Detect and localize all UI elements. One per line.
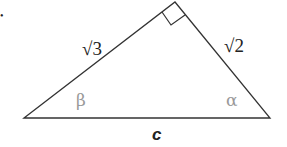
triangle-diagram: • √3 √2 β α c: [0, 0, 287, 147]
angle-label-beta: β: [76, 90, 86, 110]
side-label-right: √2: [224, 35, 244, 56]
side-label-left: √3: [82, 38, 102, 59]
bullet: •: [0, 10, 4, 21]
side-label-hypotenuse: c: [152, 125, 162, 144]
right-angle-marker: [162, 12, 185, 25]
angle-label-alpha: α: [226, 90, 238, 110]
